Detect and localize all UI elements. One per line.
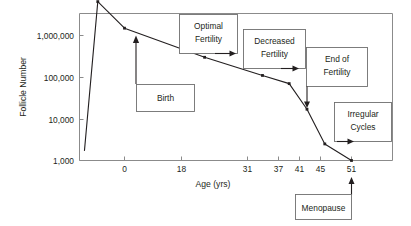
callout-irregular-cycles: Irregular Cycles <box>335 103 392 145</box>
callout-optimal-fertility: Optimal Fertility <box>180 15 238 57</box>
x-tick-label-37: 37 <box>274 164 284 174</box>
y-tick-label-1000000: 1,000,000 <box>37 31 75 41</box>
callout-irregular-cycles-line1: Irregular <box>347 109 378 119</box>
data-point <box>288 82 291 85</box>
data-point <box>96 0 99 3</box>
callout-optimal-fertility-line1: Optimal <box>194 21 223 31</box>
callout-end-of-fertility: End of Fertility <box>304 48 368 109</box>
callout-optimal-fertility-line2: Fertility <box>195 34 223 44</box>
callout-decreased-fertility-line1: Decreased <box>254 36 295 46</box>
x-tick-label-0: 0 <box>122 164 127 174</box>
y-tick-label-100000: 100,000 <box>44 73 75 83</box>
callout-menopause: Menopause <box>296 177 355 220</box>
x-axis-ticks <box>125 157 352 161</box>
data-point <box>261 74 264 77</box>
x-tick-label-18: 18 <box>177 164 187 174</box>
data-point <box>306 108 309 111</box>
y-axis-ticks <box>80 36 84 161</box>
data-point <box>203 56 206 59</box>
callout-end-of-fertility-line1: End of <box>325 54 350 64</box>
x-tick-label-41: 41 <box>295 164 305 174</box>
data-point <box>123 27 126 30</box>
callout-birth-label: Birth <box>157 93 175 103</box>
callout-decreased-fertility: Decreased Fertility <box>244 30 306 72</box>
follicle-number-chart: 1,000,000 100,000 10,000 1,000 Follicle … <box>0 0 411 226</box>
data-point <box>323 143 326 146</box>
callout-end-of-fertility-line2: Fertility <box>324 67 352 77</box>
x-tick-label-45: 45 <box>316 164 326 174</box>
callout-irregular-cycles-line2: Cycles <box>350 122 375 132</box>
x-axis-title: Age (yrs) <box>196 179 231 189</box>
y-tick-label-1000: 1,000 <box>53 156 74 166</box>
data-point <box>350 159 353 162</box>
callout-decreased-fertility-line2: Fertility <box>261 49 289 59</box>
x-tick-label-51: 51 <box>347 164 357 174</box>
x-tick-label-31: 31 <box>243 164 253 174</box>
y-axis-title: Follicle Number <box>18 57 28 117</box>
callout-menopause-label: Menopause <box>302 203 346 213</box>
y-tick-label-10000: 10,000 <box>48 115 74 125</box>
